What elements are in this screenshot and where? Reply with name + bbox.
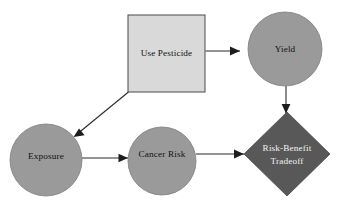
node-label-yield: Yield xyxy=(275,44,296,54)
node-yield[interactable]: Yield xyxy=(248,12,322,86)
influence-diagram-canvas: Use Pesticide Yield Exposure Cancer Risk… xyxy=(0,0,337,205)
edge-exposure-to-cancer-risk xyxy=(82,154,128,162)
arrowhead-icon xyxy=(234,150,244,159)
node-risk-benefit-tradeoff[interactable]: Risk-Benefit Tradeoff xyxy=(244,112,330,196)
node-exposure[interactable]: Exposure xyxy=(10,124,82,196)
chance-node-shape xyxy=(128,127,196,195)
edge-cancer-risk-to-tradeoff xyxy=(196,150,244,159)
node-use-pesticide[interactable]: Use Pesticide xyxy=(128,15,205,92)
edge-yield-to-tradeoff xyxy=(282,86,291,114)
edge-use-pesticide-to-exposure xyxy=(74,92,129,137)
arrowhead-icon xyxy=(230,47,240,56)
arrowhead-icon xyxy=(119,154,129,162)
node-label-use-pesticide: Use Pesticide xyxy=(141,48,193,58)
edge-line xyxy=(76,92,129,135)
node-label-risk-benefit-line2: Tradeoff xyxy=(271,156,305,166)
node-label-cancer-risk: Cancer Risk xyxy=(139,149,186,159)
value-node-shape xyxy=(244,112,330,196)
arrowhead-icon xyxy=(282,104,291,114)
node-label-risk-benefit-line1: Risk-Benefit xyxy=(263,143,312,153)
edge-use-pesticide-to-yield xyxy=(206,47,241,56)
node-label-exposure: Exposure xyxy=(28,151,64,161)
diagram-surface: Use Pesticide Yield Exposure Cancer Risk… xyxy=(0,0,337,205)
node-cancer-risk[interactable]: Cancer Risk xyxy=(128,127,196,195)
